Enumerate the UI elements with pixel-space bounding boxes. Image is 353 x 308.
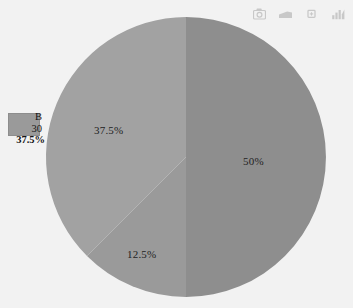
- pie-label-50: 50%: [243, 155, 264, 167]
- pie-svg: [0, 0, 353, 308]
- chart-app: 37.5% 50% 12.5% B 30 37.5%: [0, 0, 353, 308]
- pie-label-12-5: 12.5%: [127, 248, 156, 260]
- camera-icon[interactable]: [252, 6, 267, 20]
- tooltip: B 30 37.5%: [0, 112, 45, 146]
- tooltip-percent: 37.5%: [0, 135, 45, 146]
- tooltip-series-name: B: [0, 112, 45, 123]
- pie-chart: 37.5% 50% 12.5% B 30 37.5%: [0, 0, 353, 308]
- pie-label-37-5: 37.5%: [94, 124, 123, 136]
- pan-icon[interactable]: [278, 6, 293, 20]
- zoom-icon[interactable]: [304, 6, 319, 20]
- bar-chart-icon[interactable]: [330, 6, 345, 20]
- plot-toolbar: [252, 6, 345, 20]
- tooltip-value: 30: [0, 124, 45, 135]
